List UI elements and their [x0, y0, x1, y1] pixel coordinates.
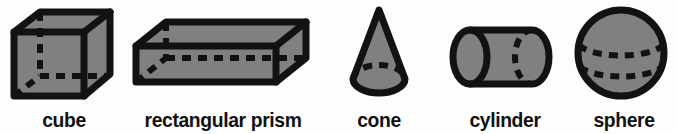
shape-label-rectangular-prism: rectangular prism — [136, 108, 311, 132]
cylinder-drawing — [440, 0, 570, 108]
shape-label-cone: cone — [323, 108, 435, 132]
shape-figure-cube: cube — [0, 0, 128, 134]
geometric-solids-diagram: cube rectangular prism — [0, 0, 678, 134]
shape-figure-cylinder: cylinder — [440, 0, 570, 134]
shape-label-cylinder: cylinder — [445, 108, 565, 132]
sphere-body-fill — [578, 10, 664, 96]
sphere-drawing — [570, 0, 678, 108]
cylinder-body-fill — [453, 30, 549, 84]
cylinder-geometry — [453, 30, 549, 84]
shape-figure-rectangular-prism: rectangular prism — [128, 0, 318, 134]
cube-drawing — [0, 0, 128, 108]
cone-drawing — [318, 0, 440, 108]
cone-geometry — [353, 10, 405, 93]
shape-figure-cone: cone — [318, 0, 440, 134]
rectangular-prism-geometry — [136, 22, 306, 82]
rectangular-prism-drawing — [128, 0, 318, 108]
shape-label-sphere: sphere — [574, 108, 673, 132]
shape-figure-sphere: sphere — [570, 0, 678, 134]
cone-body-fill — [353, 10, 405, 93]
cube-geometry — [14, 12, 110, 96]
sphere-geometry — [578, 10, 664, 96]
shape-label-cube: cube — [5, 108, 123, 132]
rect-prism-body-fill — [136, 22, 306, 82]
